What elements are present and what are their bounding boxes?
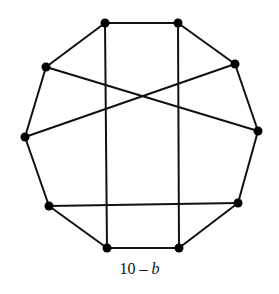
vertex-v5 <box>234 199 243 208</box>
edge-v3-v4 <box>235 64 258 131</box>
vertex-v4 <box>254 127 263 136</box>
edge-v2-v6 <box>178 23 179 248</box>
vertex-v10 <box>42 63 51 72</box>
edge-v8-v5 <box>49 203 238 206</box>
caption-dash: – <box>136 260 152 277</box>
vertex-v3 <box>231 60 240 69</box>
edge-v10-v4 <box>46 67 258 131</box>
vertex-v7 <box>103 244 112 253</box>
caption-number: 10 <box>120 260 136 277</box>
edge-v9-v10 <box>25 67 46 137</box>
graph-edges <box>25 23 258 248</box>
edge-v2-v3 <box>178 23 235 64</box>
edge-v3-v9 <box>25 64 235 137</box>
vertex-v9 <box>21 133 30 142</box>
edge-v1-v7 <box>105 23 107 248</box>
vertex-v8 <box>45 202 54 211</box>
graph-diagram <box>0 0 279 294</box>
edge-v8-v9 <box>25 137 49 206</box>
caption-letter: b <box>152 260 160 277</box>
figure-caption: 10 – b <box>0 260 279 278</box>
graph-vertices <box>21 19 263 253</box>
edge-v4-v5 <box>238 131 258 203</box>
edge-v10-v1 <box>46 23 105 67</box>
edge-v5-v6 <box>179 203 238 248</box>
vertex-v2 <box>174 19 183 28</box>
vertex-v6 <box>175 244 184 253</box>
edge-v7-v8 <box>49 206 107 248</box>
vertex-v1 <box>101 19 110 28</box>
